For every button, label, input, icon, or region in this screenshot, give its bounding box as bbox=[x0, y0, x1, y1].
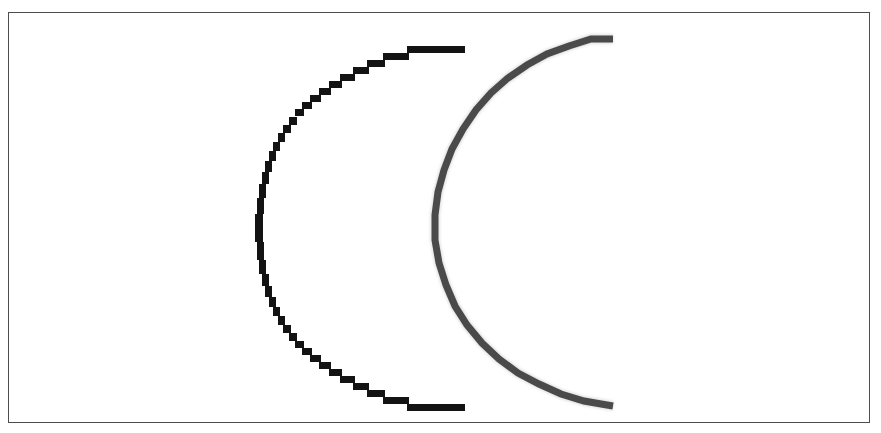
image-canvas: Two nested open C-shaped arcs (crescent … bbox=[0, 0, 881, 433]
black-arc-layer bbox=[9, 13, 871, 428]
figure-border bbox=[8, 12, 870, 423]
black-arc-blocks bbox=[255, 46, 465, 411]
black-arc-svg bbox=[9, 13, 871, 424]
plot-area bbox=[9, 13, 869, 422]
